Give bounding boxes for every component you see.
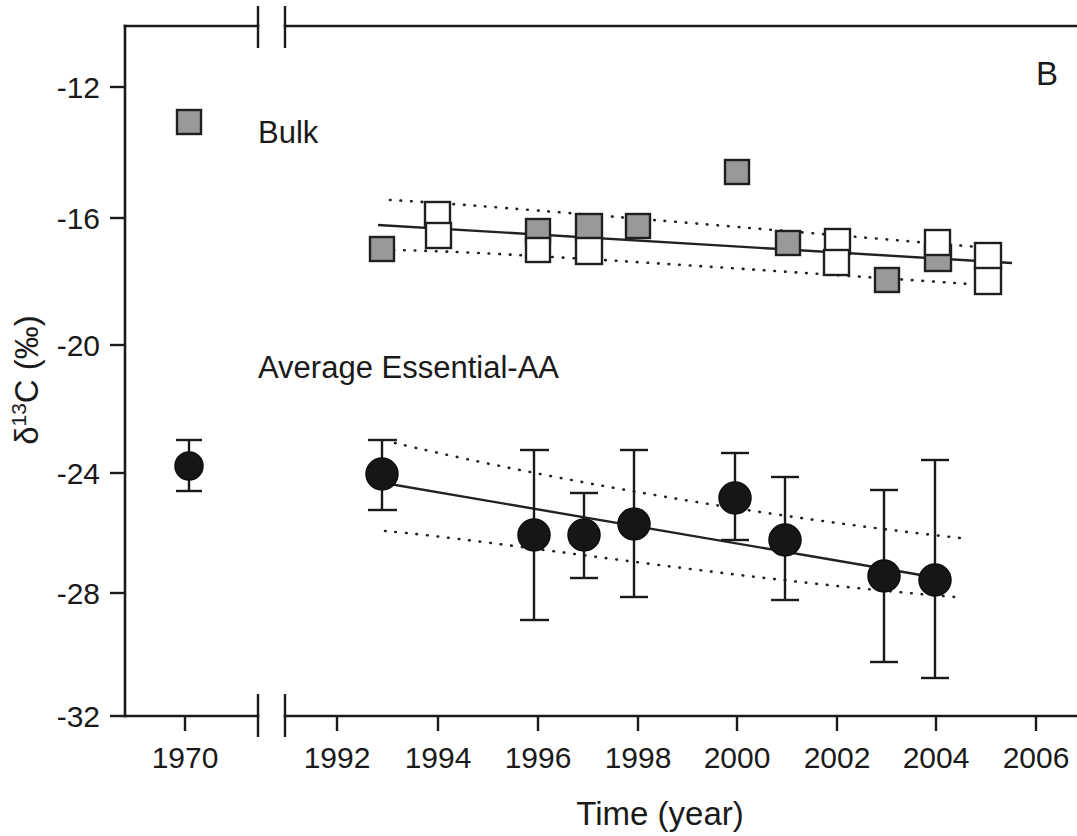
x-tick-label-2002: 2002 xyxy=(804,741,871,774)
x-axis-tick-labels: 1970 1992 1994 1996 1998 2000 2002 2004 … xyxy=(152,741,1070,774)
x-tick-label-2006: 2006 xyxy=(1003,741,1070,774)
bulk-marker-open xyxy=(925,230,950,255)
essential-aa-marker xyxy=(868,560,900,592)
y-axis-title-element: C xyxy=(8,379,45,403)
bulk-marker-open xyxy=(975,243,1001,269)
x-tick-label-1970: 1970 xyxy=(152,741,219,774)
bulk-marker-open xyxy=(526,238,550,262)
x-tick-label-1998: 1998 xyxy=(605,741,672,774)
y-axis-tick-labels: -12 -16 -20 -24 -28 -32 xyxy=(57,71,100,733)
chart-canvas: -12 -16 -20 -24 -28 -32 1970 1992 1994 1… xyxy=(0,0,1077,836)
y-axis-title-delta: δ xyxy=(8,426,45,444)
essential-aa-series-group xyxy=(175,440,960,678)
bulk-marker-filled xyxy=(177,110,201,134)
essential-aa-marker xyxy=(518,519,550,551)
x-tick-label-1994: 1994 xyxy=(405,741,472,774)
essential-aa-marker xyxy=(366,458,398,490)
bulk-marker-filled xyxy=(370,237,394,261)
essential-aa-marker xyxy=(618,508,650,540)
bulk-marker-filled xyxy=(875,268,899,292)
essential-aa-confidence-lower xyxy=(385,531,955,597)
y-tick-label--16: -16 xyxy=(57,202,100,235)
x-tick-label-2004: 2004 xyxy=(903,741,970,774)
x-tick-label-2000: 2000 xyxy=(704,741,771,774)
bulk-marker-filled xyxy=(776,231,800,255)
y-tick-label--28: -28 xyxy=(57,577,100,610)
bulk-marker-open xyxy=(975,268,1001,294)
bulk-marker-open xyxy=(576,238,602,264)
panel-label-b: B xyxy=(1036,55,1058,92)
x-axis-title: Time (year) xyxy=(576,795,743,832)
x-axis-ticks xyxy=(185,716,1036,731)
bulk-regression-line xyxy=(378,225,1012,263)
y-tick-label--12: -12 xyxy=(57,71,100,104)
essential-aa-marker xyxy=(568,519,600,551)
essential-aa-marker xyxy=(175,452,203,480)
bulk-marker-filled-outlier xyxy=(725,160,749,184)
y-axis-title: δ13C (‰) xyxy=(7,315,45,445)
x-tick-label-1996: 1996 xyxy=(505,741,572,774)
bulk-confidence-lower xyxy=(383,250,1000,286)
bulk-marker-open xyxy=(426,223,451,248)
y-axis-title-units: (‰) xyxy=(8,315,45,370)
bulk-marker-filled xyxy=(626,214,650,238)
essential-aa-marker xyxy=(769,524,801,556)
bulk-marker-filled xyxy=(576,214,602,240)
y-tick-label--32: -32 xyxy=(57,700,100,733)
y-tick-label--20: -20 xyxy=(57,329,100,362)
chart-figure: -12 -16 -20 -24 -28 -32 1970 1992 1994 1… xyxy=(0,0,1077,836)
svg-text:δ13C (‰): δ13C (‰) xyxy=(7,315,45,445)
x-tick-label-1992: 1992 xyxy=(304,741,371,774)
bulk-confidence-upper xyxy=(390,200,990,248)
y-axis-title-superscript: 13 xyxy=(7,403,30,426)
series-label-bulk: Bulk xyxy=(258,115,319,150)
bulk-marker-open xyxy=(824,250,849,275)
essential-aa-marker xyxy=(719,482,751,514)
y-tick-label--24: -24 xyxy=(57,457,100,490)
y-axis-ticks xyxy=(110,87,125,716)
essential-aa-marker xyxy=(919,564,951,596)
series-label-essential-aa: Average Essential-AA xyxy=(258,350,559,385)
